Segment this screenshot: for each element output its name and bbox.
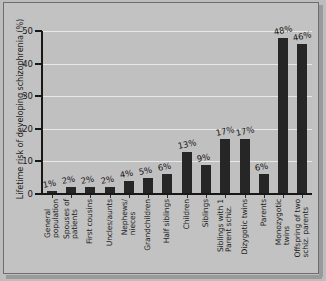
category-label: Monozygotictwins (275, 199, 292, 245)
x-tick-mark (71, 195, 72, 198)
y-tick-label: 30 (0, 91, 33, 101)
category-label-line: population (52, 199, 60, 238)
category-label: First cousins (86, 199, 94, 244)
category-label: Siblings (202, 199, 210, 227)
x-tick-mark (52, 195, 53, 198)
x-tick-mark (187, 195, 188, 198)
x-tick-mark (110, 195, 111, 198)
category-label: Nephews/nieces (121, 199, 138, 235)
category-label: Spouses ofpatients (63, 199, 80, 239)
bar (278, 38, 288, 194)
plot-area: 1%2%2%2%4%5%6%13%9%17%17%6%48%46% (42, 31, 312, 194)
figure-shadow-bottom (6, 275, 322, 279)
y-tick-label: 20 (0, 124, 33, 134)
category-label: Half siblings (163, 199, 171, 243)
category-label-line: General (44, 199, 52, 238)
figure-shadow-right (319, 5, 323, 277)
y-tick-mark (35, 63, 42, 65)
category-label-line: First cousins (86, 199, 94, 244)
x-tick-mark (148, 195, 149, 198)
category-label-line: Parents (260, 199, 268, 226)
y-tick-label: 0 (0, 189, 33, 199)
category-label: Grandchildren (144, 199, 152, 251)
x-tick-mark (264, 195, 265, 198)
bar (182, 152, 192, 194)
x-tick-mark (302, 195, 303, 198)
x-tick-mark (225, 195, 226, 198)
category-label: Siblings with 1Parent schiz. (217, 199, 234, 252)
category-label-line: Grandchildren (144, 199, 152, 251)
category-label-line: twins (283, 199, 291, 245)
category-label-line: schiz. parents (303, 199, 311, 258)
category-label: Parents (260, 199, 268, 226)
category-label: Dizygotic twins (241, 199, 249, 254)
gridline (42, 64, 312, 65)
category-label: Generalpopulation (44, 199, 61, 238)
x-tick-mark (206, 195, 207, 198)
y-tick-label: 50 (0, 26, 33, 36)
x-tick-mark (283, 195, 284, 198)
category-label-line: Children (183, 199, 191, 229)
y-tick-mark (35, 128, 42, 130)
bar (220, 139, 230, 194)
gridline (42, 96, 312, 97)
x-tick-mark (129, 195, 130, 198)
y-tick-label: 40 (0, 59, 33, 69)
category-label-line: patients (71, 199, 79, 239)
y-tick-mark (35, 30, 42, 32)
x-tick-mark (90, 195, 91, 198)
category-label-line: Siblings (202, 199, 210, 227)
category-label: Children (183, 199, 191, 229)
category-label: Offspring of twoschiz. parents (294, 199, 311, 258)
gridline (42, 161, 312, 162)
bar (201, 165, 211, 194)
y-axis-title: Lifetime risk of developing schizophreni… (15, 11, 25, 207)
y-tick-mark (35, 160, 42, 162)
category-label-line: Parent schiz. (226, 199, 234, 252)
category-label-line: Half siblings (163, 199, 171, 243)
category-label-line: Dizygotic twins (241, 199, 249, 254)
bar (240, 139, 250, 194)
x-axis-spine (41, 193, 312, 195)
bar (143, 178, 153, 194)
gridline (42, 31, 312, 32)
category-label-line: nieces (129, 199, 137, 235)
y-tick-label: 10 (0, 156, 33, 166)
y-axis-spine (41, 31, 43, 194)
bar (297, 44, 307, 194)
x-tick-mark (167, 195, 168, 198)
category-label: Uncles/aunts (106, 199, 114, 246)
category-label-line: Uncles/aunts (106, 199, 114, 246)
plot-background (42, 31, 312, 194)
gridline (42, 129, 312, 130)
bar (259, 174, 269, 194)
bar (162, 174, 172, 194)
x-tick-mark (245, 195, 246, 198)
chart-figure: Lifetime risk of developing schizophreni… (0, 0, 326, 281)
y-tick-mark (35, 95, 42, 97)
